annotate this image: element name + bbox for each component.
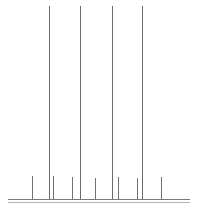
spectrum-peak-minor-6 bbox=[137, 178, 138, 199]
spectrum-peak-minor-7 bbox=[161, 177, 162, 199]
spectrum-peak-minor-1 bbox=[32, 176, 33, 199]
spectrum-peak-major-4 bbox=[142, 6, 143, 199]
spectrum-plot-area bbox=[0, 0, 198, 213]
spectrum-peak-minor-3 bbox=[72, 177, 73, 199]
spectrum-peak-major-1 bbox=[49, 6, 50, 199]
spectrum-peak-minor-2 bbox=[53, 176, 54, 199]
spectrum-baseline-shadow bbox=[8, 202, 190, 203]
spectrum-baseline-axis bbox=[8, 199, 190, 200]
spectrum-peak-major-3 bbox=[112, 6, 113, 199]
spectrum-peak-major-2 bbox=[80, 6, 81, 199]
spectrum-figure bbox=[0, 0, 198, 213]
spectrum-peak-minor-5 bbox=[118, 177, 119, 199]
spectrum-peak-minor-4 bbox=[95, 178, 96, 199]
